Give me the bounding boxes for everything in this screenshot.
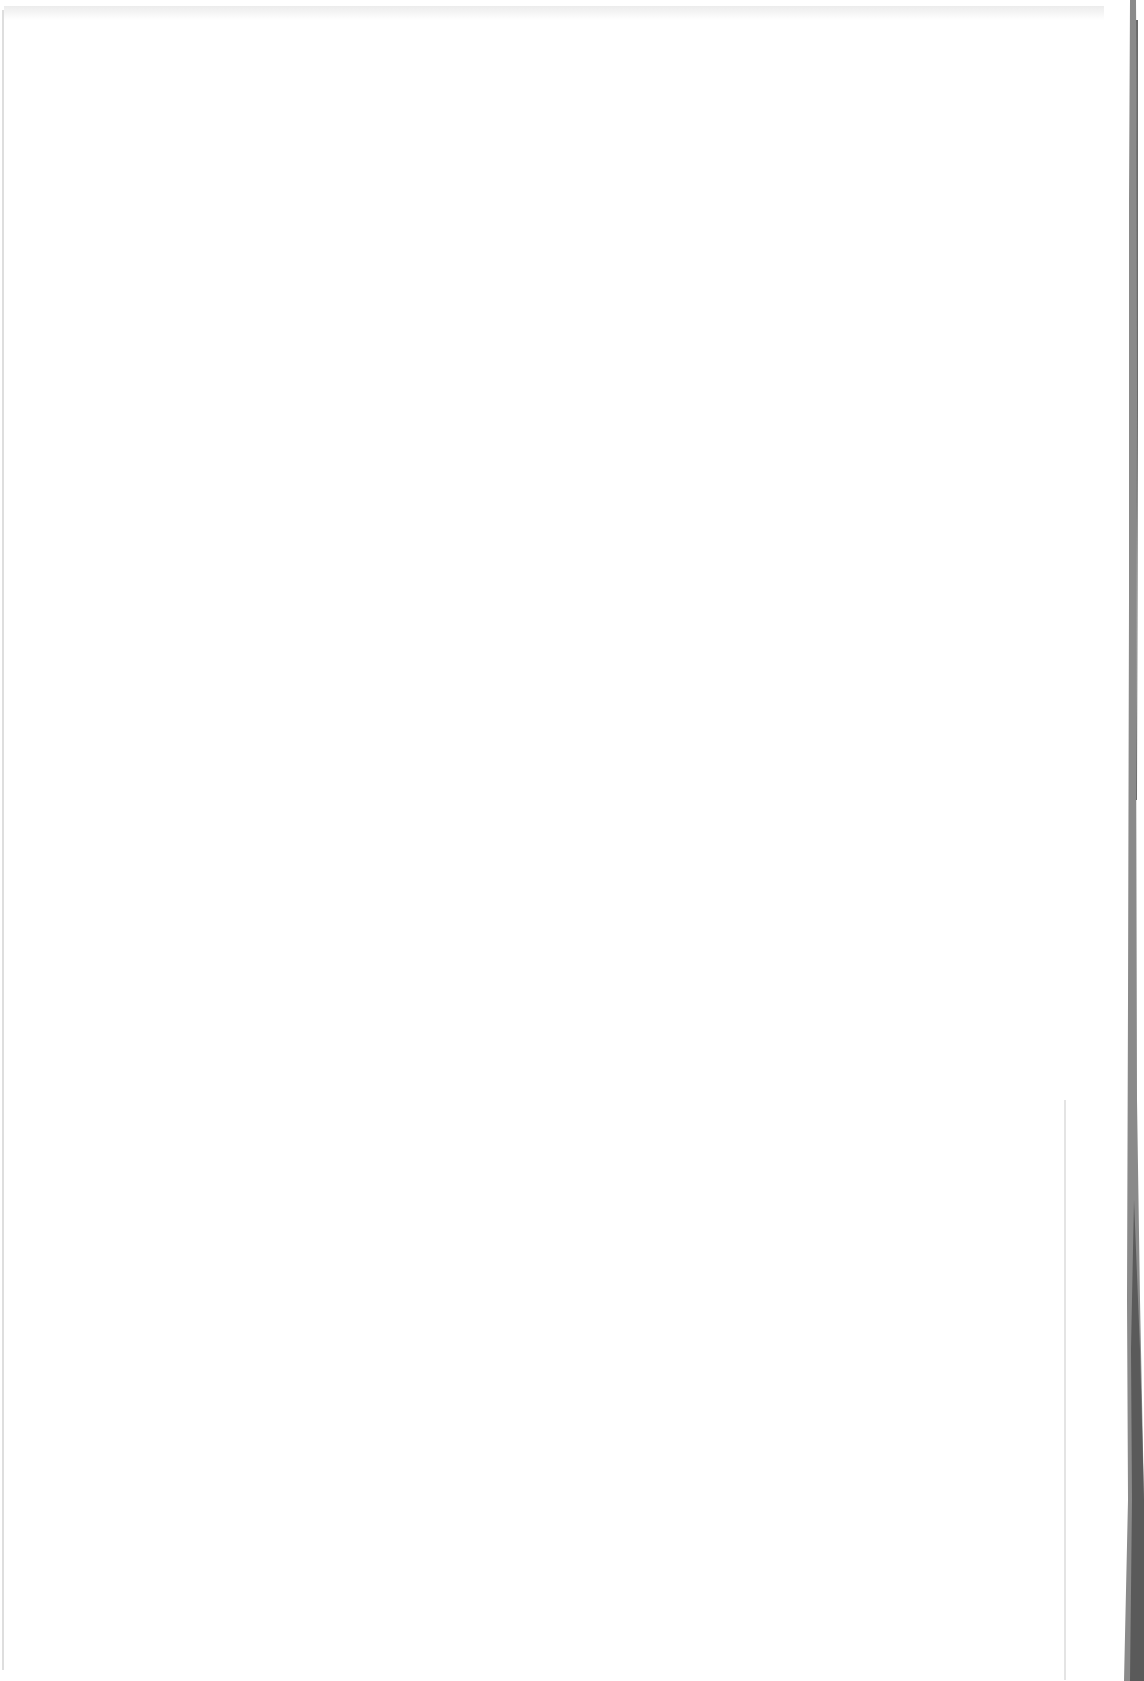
left-page-edge	[2, 10, 4, 1670]
page-crease	[1064, 1100, 1066, 1680]
top-scan-shadow	[4, 6, 1104, 20]
torn-right-edge	[1084, 0, 1144, 1681]
blank-scanned-page	[0, 0, 1144, 1681]
